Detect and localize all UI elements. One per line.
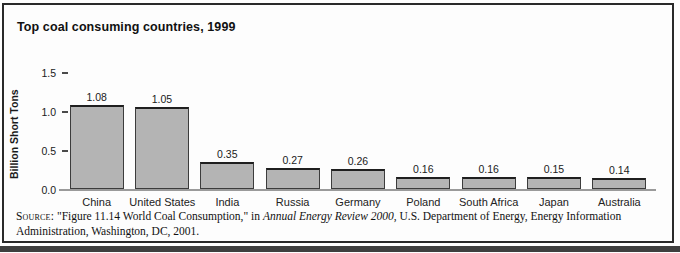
bar xyxy=(70,105,124,189)
x-tick-label: India xyxy=(195,196,260,208)
x-tick-label: China xyxy=(64,196,129,208)
scanned-figure-page: Top coal consuming countries, 1999 Billi… xyxy=(0,0,680,253)
bar-value-label: 0.35 xyxy=(195,148,260,160)
y-tick-mark xyxy=(62,150,68,152)
x-tick-label: Germany xyxy=(325,196,390,208)
bar-value-label: 0.16 xyxy=(456,163,521,175)
chart-title: Top coal consuming countries, 1999 xyxy=(17,20,236,34)
bar xyxy=(527,177,581,189)
bar-value-label: 0.14 xyxy=(587,164,652,176)
source-note: Source: "Figure 11.14 World Coal Consump… xyxy=(16,209,664,238)
source-title-italic: Annual Energy Review 2000 xyxy=(263,210,394,222)
y-tick-label: 1.0 xyxy=(24,105,56,119)
bar xyxy=(462,177,516,189)
y-tick-label: 1.5 xyxy=(24,66,56,80)
x-tick-label: Poland xyxy=(391,196,456,208)
source-label: Source: xyxy=(16,210,54,222)
y-tick-label: 0.5 xyxy=(24,144,56,158)
bar-value-label: 1.08 xyxy=(64,91,129,103)
bar xyxy=(266,168,320,189)
bar-value-label: 0.26 xyxy=(325,155,390,167)
y-tick-label: 0.0 xyxy=(24,183,56,197)
y-axis-title: Billion Short Tons xyxy=(8,75,20,193)
x-tick-label: South Africa xyxy=(456,196,521,208)
x-tick-label: Russia xyxy=(260,196,325,208)
x-axis-baseline xyxy=(59,189,656,191)
x-tick-label: Australia xyxy=(587,196,652,208)
scan-edge-strip xyxy=(0,246,680,252)
x-tick-label: Japan xyxy=(521,196,586,208)
bar xyxy=(135,107,189,189)
x-tick-label: United States xyxy=(129,196,194,208)
bar-value-label: 0.15 xyxy=(521,163,586,175)
bar-value-label: 1.05 xyxy=(129,93,194,105)
y-tick-mark xyxy=(62,111,68,113)
bar xyxy=(331,169,385,189)
bar xyxy=(592,178,646,189)
bar xyxy=(200,162,254,189)
source-text-1: "Figure 11.14 World Coal Consumption," i… xyxy=(54,210,263,222)
bar-value-label: 0.16 xyxy=(391,163,456,175)
y-tick-mark xyxy=(62,72,68,74)
bar xyxy=(396,177,450,189)
bar-value-label: 0.27 xyxy=(260,154,325,166)
figure-border-box: Top coal consuming countries, 1999 Billi… xyxy=(2,3,674,243)
